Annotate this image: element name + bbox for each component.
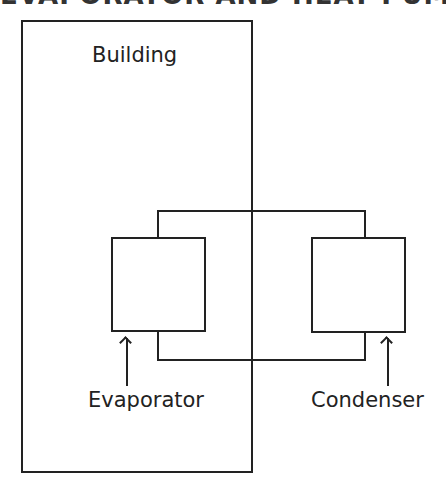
top-pipe-left-riser: [157, 210, 159, 238]
evaporator-label: Evaporator: [88, 388, 204, 412]
evaporator-box: [111, 237, 206, 332]
bottom-pipe-left-drop: [157, 331, 159, 361]
bottom-pipe-right-drop: [364, 332, 366, 361]
condenser-arrow-icon: [387, 338, 389, 386]
building-label: Building: [92, 43, 177, 67]
clipped-heading-region: EVAPORATOR AND HEAT PUMP: [0, 0, 446, 7]
condenser-box: [311, 237, 406, 333]
condenser-label: Condenser: [311, 388, 424, 412]
page-heading: EVAPORATOR AND HEAT PUMP: [0, 0, 446, 7]
top-pipe-right-riser: [364, 210, 366, 238]
bottom-pipe: [157, 359, 366, 361]
top-pipe: [157, 210, 366, 212]
evaporator-arrow-icon: [126, 338, 128, 386]
